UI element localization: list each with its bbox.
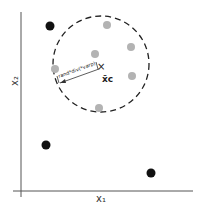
inner-data-point xyxy=(91,50,99,58)
y-axis-label: x₂ xyxy=(9,76,20,86)
outer-data-point xyxy=(46,22,55,31)
center-cross-icon: × xyxy=(97,61,105,72)
outer-data-point xyxy=(147,169,156,178)
outer-data-point xyxy=(42,141,51,150)
scatter-diagram: x₁ x₂ rand*div(*varp) × x̄c xyxy=(0,0,201,208)
inner-data-point xyxy=(127,43,135,51)
outer-points-group xyxy=(42,22,156,178)
arrowhead-icon xyxy=(60,79,66,83)
x-axis-label: x₁ xyxy=(96,193,106,204)
inner-data-point xyxy=(128,72,136,80)
center-label: x̄c xyxy=(102,74,113,84)
inner-data-point xyxy=(95,104,103,112)
inner-data-point xyxy=(103,21,111,29)
inner-data-point xyxy=(51,65,59,73)
